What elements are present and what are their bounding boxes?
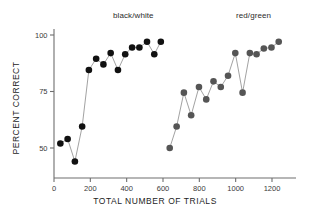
svg-text:600: 600 [157, 184, 170, 193]
data-point [100, 61, 107, 68]
svg-text:800: 800 [193, 184, 206, 193]
data-point [181, 89, 188, 96]
data-point [107, 50, 114, 57]
data-point [247, 50, 254, 57]
data-point [188, 112, 195, 119]
svg-text:75: 75 [39, 87, 47, 96]
x-axis-label: TOTAL NUMBER OF TRIALS [0, 196, 310, 206]
data-point [64, 136, 71, 143]
svg-text:200: 200 [84, 184, 97, 193]
data-point [151, 51, 158, 58]
svg-text:1200: 1200 [264, 184, 281, 193]
data-point [72, 158, 79, 165]
data-point [93, 55, 100, 62]
data-point [275, 38, 282, 45]
data-point [115, 67, 122, 74]
data-point [203, 96, 210, 103]
series-points [57, 38, 282, 164]
annotation-black-white: black/white [113, 11, 154, 20]
y-axis-label: PERCENT CORRECT [11, 48, 21, 168]
data-point [173, 123, 180, 130]
data-point [232, 50, 239, 57]
data-point [261, 45, 268, 52]
data-point [79, 123, 86, 130]
svg-text:50: 50 [39, 144, 47, 153]
chart-container: black/white red/green PERCENT CORRECT TO… [0, 0, 310, 217]
data-point [86, 67, 93, 74]
data-point [253, 51, 260, 58]
annotation-red-green: red/green [236, 11, 271, 20]
svg-text:1000: 1000 [227, 184, 244, 193]
svg-text:100: 100 [35, 31, 48, 40]
plot-area: 5075100 020040060080010001200 [0, 0, 310, 217]
data-point [122, 51, 129, 58]
data-point [166, 145, 173, 152]
series-line-0 [60, 42, 160, 162]
data-point [239, 89, 246, 96]
data-point [144, 38, 151, 45]
data-point [196, 84, 203, 91]
svg-text:400: 400 [120, 184, 133, 193]
data-point [217, 84, 224, 91]
data-point [268, 44, 275, 51]
data-point [225, 72, 232, 79]
data-point [136, 44, 143, 51]
data-point [158, 38, 165, 45]
x-axis-ticks: 020040060080010001200 [52, 178, 280, 193]
svg-text:0: 0 [52, 184, 56, 193]
y-axis-ticks: 5075100 [35, 31, 54, 153]
data-point [57, 140, 64, 147]
data-point [129, 44, 136, 51]
data-point [210, 78, 217, 85]
